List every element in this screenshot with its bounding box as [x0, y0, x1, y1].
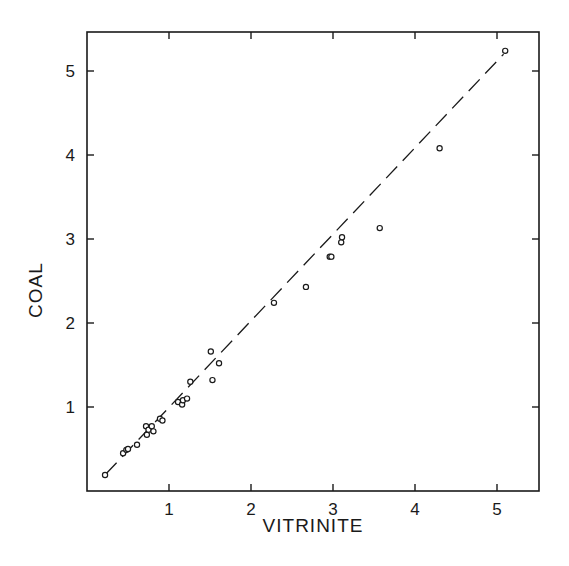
- x-axis-title: VITRINITE: [263, 515, 364, 536]
- fit-line: [106, 54, 504, 474]
- y-tick-label: 2: [66, 314, 75, 333]
- x-tick-label: 1: [164, 500, 173, 519]
- data-point: [160, 418, 165, 423]
- data-point: [134, 442, 139, 447]
- scatter-chart: 1234512345 VITRINITE COAL: [0, 0, 569, 566]
- data-point: [125, 446, 130, 451]
- data-point: [503, 48, 508, 53]
- y-tick-label: 5: [66, 62, 75, 81]
- data-point: [339, 240, 344, 245]
- y-axis-title: COAL: [25, 262, 46, 318]
- data-point: [208, 349, 213, 354]
- tick-labels: 1234512345: [66, 62, 502, 519]
- data-point: [339, 235, 344, 240]
- data-point: [151, 429, 156, 434]
- y-tick-label: 1: [66, 398, 75, 417]
- y-tick-label: 3: [66, 230, 75, 249]
- plot-frame: [87, 32, 539, 491]
- data-point: [216, 361, 221, 366]
- data-point: [149, 424, 154, 429]
- data-point: [184, 396, 189, 401]
- data-point: [271, 300, 276, 305]
- data-point: [188, 379, 193, 384]
- x-tick-label: 5: [492, 500, 501, 519]
- data-point: [144, 432, 149, 437]
- y-tick-label: 4: [66, 146, 75, 165]
- axis-ticks: [87, 32, 539, 491]
- x-tick-label: 2: [246, 500, 255, 519]
- data-point: [377, 225, 382, 230]
- data-point: [303, 284, 308, 289]
- x-tick-label: 4: [410, 500, 419, 519]
- data-point: [210, 378, 215, 383]
- data-point: [437, 146, 442, 151]
- dashed-fit-line: [106, 54, 504, 474]
- data-point: [102, 472, 107, 477]
- data-point: [329, 254, 334, 259]
